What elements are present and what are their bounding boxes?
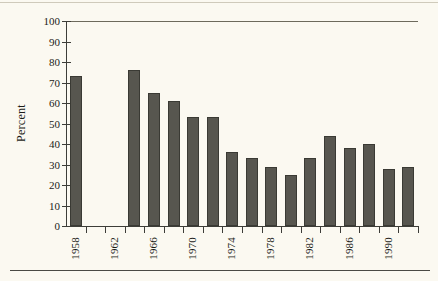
chart-figure: Percent 0102030405060708090100 195819621…	[0, 0, 438, 281]
x-tick	[242, 226, 243, 233]
x-tick-label: 1986	[344, 237, 355, 260]
y-tick-label: 10	[49, 200, 60, 211]
x-tick	[398, 226, 399, 233]
x-tick-label: 1982	[304, 237, 315, 260]
x-tick	[183, 226, 184, 233]
x-tick	[222, 226, 223, 233]
y-tick-label: 20	[49, 180, 60, 191]
bar	[148, 93, 160, 226]
y-tick-label: 60	[49, 98, 60, 109]
bar	[128, 70, 140, 226]
bar	[246, 158, 258, 226]
y-tick-label: 100	[44, 16, 61, 27]
x-tick-label: 1958	[70, 237, 81, 260]
y-tick-label: 90	[49, 36, 60, 47]
y-tick-label: 40	[49, 139, 60, 150]
top-divider-rule	[0, 2, 438, 3]
x-tick-label: 1962	[109, 237, 120, 260]
x-tick	[418, 226, 419, 233]
bar	[265, 167, 277, 226]
x-tick	[379, 226, 380, 233]
bar	[207, 117, 219, 226]
x-tick	[359, 226, 360, 233]
bar	[187, 117, 199, 226]
x-tick-label: 1966	[148, 237, 159, 260]
bar	[70, 76, 82, 226]
x-tick	[281, 226, 282, 233]
bar	[363, 144, 375, 226]
x-tick-label: 1978	[265, 237, 276, 260]
x-tick	[86, 226, 87, 233]
bar	[285, 175, 297, 226]
y-tick-label: 70	[49, 77, 60, 88]
plot-top-border	[66, 21, 418, 22]
bottom-divider-rule	[10, 270, 430, 271]
y-tick	[62, 62, 71, 63]
x-tick	[262, 226, 263, 233]
x-tick	[144, 226, 145, 233]
x-tick	[340, 226, 341, 233]
bar	[324, 136, 336, 226]
y-tick-label: 30	[49, 159, 60, 170]
y-tick	[62, 226, 71, 227]
bar	[383, 169, 395, 226]
y-tick-label: 80	[49, 57, 60, 68]
x-tick-label: 1974	[226, 237, 237, 260]
x-tick-label: 1970	[187, 237, 198, 260]
y-tick-label: 50	[49, 118, 60, 129]
x-tick	[164, 226, 165, 233]
bar	[226, 152, 238, 226]
x-tick	[203, 226, 204, 233]
y-tick	[62, 21, 71, 22]
x-tick-label: 1990	[383, 237, 394, 260]
bar	[304, 158, 316, 226]
y-axis-title: Percent	[14, 104, 29, 142]
y-tick	[62, 42, 71, 43]
bar	[402, 167, 414, 226]
x-tick	[125, 226, 126, 233]
bar	[168, 101, 180, 226]
x-tick	[320, 226, 321, 233]
plot-area: 0102030405060708090100 19581962196619701…	[66, 21, 418, 227]
y-tick-label: 0	[55, 221, 61, 232]
x-tick	[105, 226, 106, 233]
bar	[344, 148, 356, 226]
x-tick	[301, 226, 302, 233]
